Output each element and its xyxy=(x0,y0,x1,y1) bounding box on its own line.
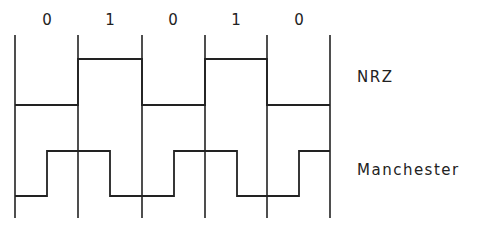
bit-label: 0 xyxy=(168,11,178,29)
bit-label: 1 xyxy=(105,11,115,29)
manchester-label: Manchester xyxy=(357,161,460,179)
encoding-diagram: 0 1 0 1 0 NRZ Manchester xyxy=(0,0,488,227)
bit-label: 0 xyxy=(294,11,304,29)
bit-label: 0 xyxy=(42,11,52,29)
bit-label: 1 xyxy=(231,11,241,29)
manchester-waveform xyxy=(15,151,330,196)
nrz-label: NRZ xyxy=(357,68,393,86)
nrz-waveform xyxy=(15,59,330,105)
bit-boundaries xyxy=(15,35,330,218)
